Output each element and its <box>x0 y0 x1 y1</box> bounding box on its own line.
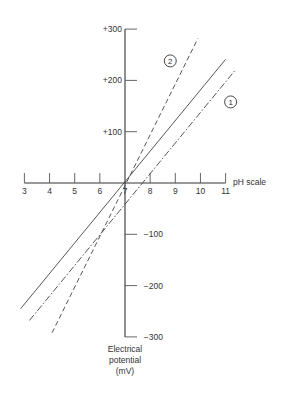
ph-electrode-chart: +300+200+100−100−200−300 34567891011 12 … <box>0 0 283 402</box>
y-axis-label-line-2: potential <box>109 355 141 365</box>
x-tick-label: 9 <box>173 186 178 196</box>
y-tick-label: −100 <box>144 229 163 239</box>
annotation-label-1: 1 <box>228 98 233 107</box>
x-tick-label: 5 <box>72 186 77 196</box>
y-tick-label: +300 <box>103 24 122 34</box>
y-tick-label: −300 <box>144 332 163 342</box>
x-tick-label: 4 <box>47 186 52 196</box>
x-axis-label: pH scale <box>233 177 266 187</box>
x-tick-label: 10 <box>196 186 206 196</box>
y-axis-label-line-3: (mV) <box>116 366 135 376</box>
y-tick-label: +100 <box>103 127 122 137</box>
x-tick-label: 11 <box>221 186 230 196</box>
y-axis-label-line-1: Electrical <box>108 344 143 354</box>
x-tick-label: 6 <box>97 186 102 196</box>
y-tick-label: −200 <box>144 281 163 291</box>
y-tick-label: +200 <box>103 75 122 85</box>
series-line-solid <box>21 59 226 308</box>
x-tick-label: 3 <box>22 186 27 196</box>
x-axis: 34567891011 <box>22 173 230 196</box>
x-tick-label: 8 <box>148 186 153 196</box>
annotation-label-2: 2 <box>168 57 173 66</box>
x-tick-label: 7 <box>123 186 128 196</box>
y-axis-label: Electrical potential (mV) <box>108 344 143 376</box>
